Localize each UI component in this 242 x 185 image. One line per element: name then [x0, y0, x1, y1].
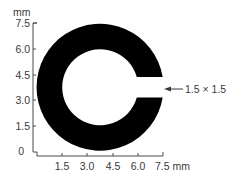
y-tick-label: 7.5: [15, 17, 30, 29]
x-tick-label: 1.5: [55, 160, 70, 172]
gap-size-label: 1.5 × 1.5: [185, 83, 226, 95]
arrow-left-icon: [164, 87, 171, 92]
x-axis: 1.5 3.0 4.5 6.0 7.5 mm: [37, 152, 190, 172]
x-tick-label: 6.0: [131, 160, 146, 172]
x-tick-label-with-unit: 7.5 mm: [155, 160, 190, 172]
x-tick-label: 4.5: [106, 160, 121, 172]
y-tick-label: 3.0: [15, 94, 30, 106]
y-axis-line: [33, 23, 37, 156]
y-tick-label: 4.5: [15, 69, 30, 81]
landolt-c-diagram: mm 7.5 6.0 4.5 3.0 1.5 0 1.5 3.0 4.5 6.0…: [0, 0, 242, 185]
x-tick-label: 3.0: [80, 160, 95, 172]
y-tick-label: 6.0: [15, 43, 30, 55]
y-tick-label: 1.5: [15, 120, 30, 132]
landolt-c-ring: [37, 24, 163, 151]
y-tick-label: 0: [18, 145, 24, 157]
gap-annotation: 1.5 × 1.5: [164, 83, 226, 95]
y-axis: mm 7.5 6.0 4.5 3.0 1.5 0: [13, 6, 37, 157]
